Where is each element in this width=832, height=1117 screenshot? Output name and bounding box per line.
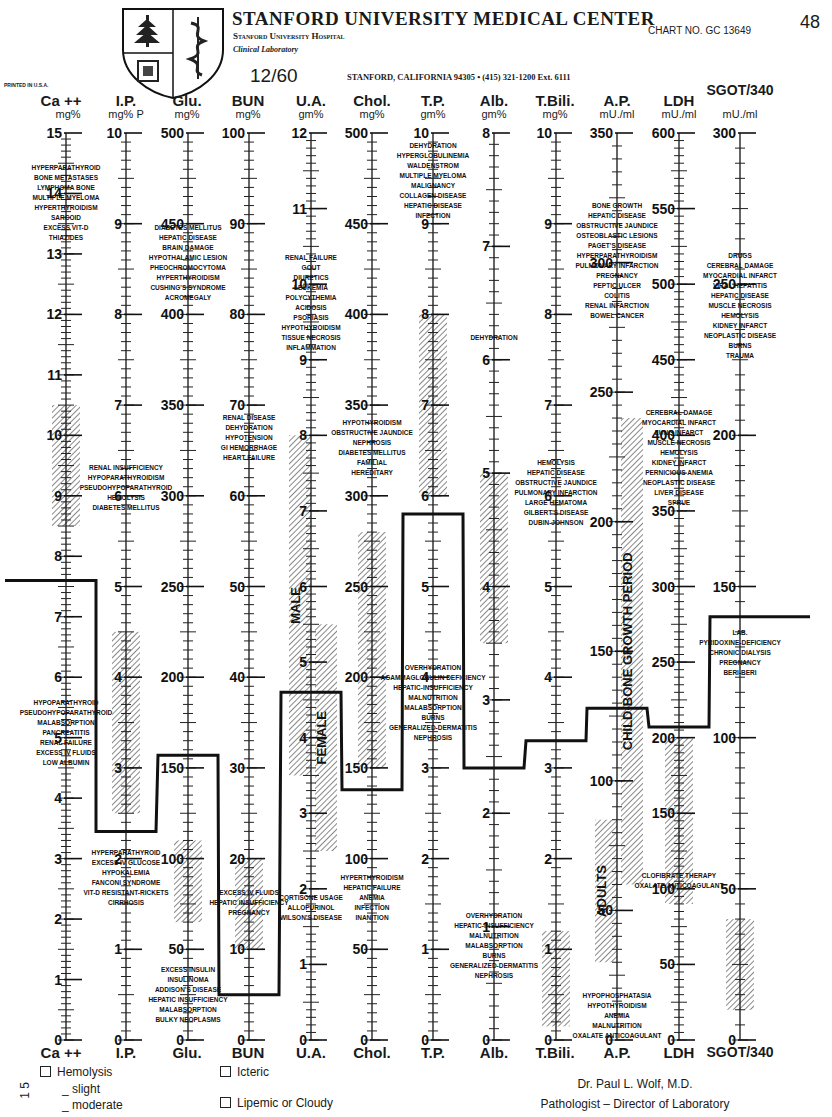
cause-label: PAGET'S DISEASE bbox=[588, 242, 647, 249]
tick-label: 350 bbox=[345, 397, 369, 413]
hemolysis-moderate: _ moderate bbox=[62, 1098, 123, 1112]
cause-label: NEOPLASTIC DISEASE bbox=[643, 479, 716, 486]
tick-label: 4 bbox=[114, 669, 122, 685]
cause-label: DEHYDRATION bbox=[470, 334, 517, 341]
band-label: CHILD-BONE GROWTH PERIOD bbox=[620, 552, 635, 750]
cause-label: HEPATIC INSUFFICIENCY bbox=[148, 996, 228, 1003]
cause-label: BONE GROWTH bbox=[592, 202, 642, 209]
tick-label: 10 bbox=[229, 941, 245, 957]
band-label: ADULTS bbox=[594, 865, 609, 917]
tick-label: 12 bbox=[291, 125, 307, 141]
tick-label: 5 bbox=[421, 579, 429, 595]
cause-label: HYPOTHYROIDISM bbox=[342, 419, 401, 426]
cause-label: ACROMEGALY bbox=[165, 294, 212, 301]
tick-label: 600 bbox=[652, 125, 676, 141]
tick-label: 200 bbox=[713, 427, 737, 443]
cause-label: PYRIDOXINE-DEFICIENCY bbox=[699, 639, 781, 646]
cause-label: OBSTRUCTIVE JAUNDICE bbox=[515, 479, 597, 486]
cause-label: HYPERTHYROIDISM bbox=[156, 274, 219, 281]
cause-label: CEREBRAL DAMAGE bbox=[646, 409, 713, 416]
cause-label: HEPATIC INSUFFICIENCY bbox=[209, 899, 289, 906]
tick-label: 250 bbox=[345, 579, 369, 595]
tick-label: 7 bbox=[299, 503, 307, 519]
cause-label: BOWEL CANCER bbox=[590, 312, 644, 319]
tick-label: 150 bbox=[590, 643, 614, 659]
cause-label: INFECTION bbox=[415, 212, 450, 219]
tick-label: 10 bbox=[413, 125, 429, 141]
cause-label: FANCONI SYNDROME bbox=[92, 879, 161, 886]
cause-label: OBSTRUCTIVE JAUNDICE bbox=[331, 429, 413, 436]
tick-label: 11 bbox=[47, 367, 62, 383]
cause-label: BONE METASTASES bbox=[34, 174, 99, 181]
cause-label: HYPERTHYROIDISM bbox=[34, 204, 97, 211]
checkbox-icon[interactable] bbox=[220, 1066, 231, 1077]
band-label: FEMALE bbox=[314, 711, 329, 765]
cause-label: HEPATIC DISEASE bbox=[159, 234, 218, 241]
cause-label: WALDENSTROM bbox=[407, 162, 459, 169]
cause-label: MYOCARDIAL INFARCT bbox=[642, 419, 716, 426]
tick-label: 13 bbox=[46, 246, 62, 262]
cause-label: EXCESS IV FLUIDS bbox=[219, 889, 279, 896]
col-footer-glu: Glu. bbox=[152, 1046, 222, 1060]
tick-label: 350 bbox=[161, 397, 185, 413]
cause-label: HEPATIC DISEASE bbox=[711, 292, 770, 299]
hemolysis-slight: _ slight bbox=[62, 1082, 100, 1096]
tick-label: 150 bbox=[713, 579, 737, 595]
col-footer-bun: BUN bbox=[213, 1046, 283, 1060]
tick-label: 150 bbox=[161, 760, 185, 776]
cause-label: GOUT bbox=[302, 264, 321, 271]
checkbox-icon[interactable] bbox=[40, 1066, 51, 1077]
tick-label: 200 bbox=[345, 669, 369, 685]
cause-label: PEPTIC ULCER bbox=[593, 282, 641, 289]
lipemic-checkbox[interactable]: Lipemic or Cloudy bbox=[220, 1096, 333, 1110]
tick-label: 100 bbox=[222, 125, 246, 141]
tick-label: 150 bbox=[652, 805, 676, 821]
cause-label: DRUGS bbox=[728, 252, 752, 259]
tick-label: 500 bbox=[652, 276, 676, 292]
cause-label: COLLAGEN DISEASE bbox=[400, 192, 467, 199]
cause-label: TRAUMA bbox=[726, 352, 754, 359]
cause-label: DIABETES MELLITUS bbox=[338, 449, 406, 456]
cause-label: LAB. bbox=[732, 629, 747, 636]
tick-label: 10 bbox=[46, 427, 62, 443]
cause-label: ANEMIA bbox=[359, 894, 385, 901]
margin-note: 1 5 bbox=[18, 1082, 32, 1099]
tick-label: 7 bbox=[544, 397, 552, 413]
tick-label: 8 bbox=[114, 306, 122, 322]
tick-label: 300 bbox=[713, 125, 737, 141]
cause-label: HEMOLYSIS bbox=[537, 459, 575, 466]
tick-label: 3 bbox=[544, 760, 552, 776]
tick-label: 15 bbox=[46, 125, 62, 141]
signature-name: Dr. Paul L. Wolf, M.D. bbox=[515, 1077, 755, 1091]
tick-label: 6 bbox=[54, 669, 62, 685]
tick-label: 9 bbox=[114, 216, 122, 232]
cause-label: LARGE HEMATOMA bbox=[525, 499, 588, 506]
cause-label: PREGNANCY bbox=[719, 659, 761, 666]
tick-label: 500 bbox=[345, 125, 369, 141]
hemolysis-checkbox[interactable]: Hemolysis bbox=[40, 1065, 112, 1079]
tick-label: 7 bbox=[421, 397, 429, 413]
cause-label: EXCESS VIT-D bbox=[44, 224, 89, 231]
tick-label: 1 bbox=[544, 941, 552, 957]
cause-label: HYPOPHOSPHATASIA bbox=[582, 992, 651, 999]
cause-label: HEPATIC DISEASE bbox=[527, 469, 586, 476]
cause-label: ACIDOSIS bbox=[295, 304, 327, 311]
cause-label: CEREBRAL DAMAGE bbox=[707, 262, 774, 269]
cause-label: GILBERT'S DISEASE bbox=[524, 509, 589, 516]
checkbox-icon[interactable] bbox=[220, 1097, 231, 1108]
cause-label: LIVER DISEASE bbox=[654, 489, 704, 496]
cause-label: HYPOPARATHYROID bbox=[33, 699, 98, 706]
tick-label: 1 bbox=[421, 941, 429, 957]
tick-label: 100 bbox=[161, 851, 185, 867]
icteric-checkbox[interactable]: Icteric bbox=[220, 1065, 269, 1079]
cause-label: MULTIPLE MYELOMA bbox=[32, 194, 99, 201]
tick-label: 90 bbox=[229, 216, 245, 232]
cause-label: CORTISONE USAGE bbox=[279, 894, 343, 901]
cause-label: PREGNANCY bbox=[228, 909, 270, 916]
tick-label: 10 bbox=[106, 125, 122, 141]
cause-label: SPRUE bbox=[668, 499, 691, 506]
cause-label: PERNICIOUS ANEMIA bbox=[645, 469, 713, 476]
cause-label: KIDNEY INFARCT bbox=[713, 322, 767, 329]
tick-label: 10 bbox=[536, 125, 552, 141]
tick-label: 20 bbox=[229, 851, 245, 867]
